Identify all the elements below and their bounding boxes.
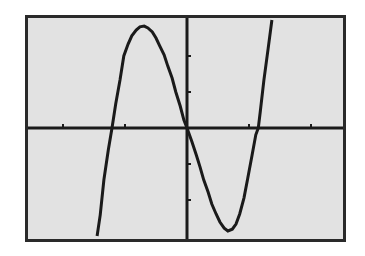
axes (28, 18, 343, 239)
function-plot (0, 0, 365, 256)
